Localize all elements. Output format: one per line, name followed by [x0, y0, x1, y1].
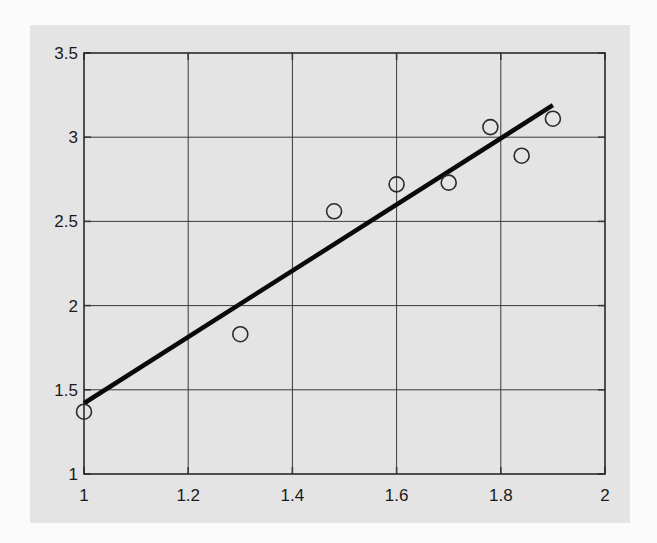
y-tick-label: 3.5	[54, 44, 78, 63]
data-point	[233, 327, 248, 342]
fit-line	[84, 105, 553, 403]
x-tick-label: 1	[79, 486, 88, 505]
x-tick-label: 1.4	[281, 486, 305, 505]
y-tick-label: 1	[69, 465, 78, 484]
y-tick-label: 3	[69, 128, 78, 147]
y-tick-label: 2	[69, 297, 78, 316]
x-tick-label: 1.6	[385, 486, 409, 505]
x-tick-label: 2	[600, 486, 609, 505]
data-point	[514, 148, 529, 163]
data-point	[441, 175, 456, 190]
plot-frame	[84, 53, 605, 474]
y-tick-label: 1.5	[54, 381, 78, 400]
data-point	[483, 120, 498, 135]
data-point	[327, 204, 342, 219]
x-tick-label: 1.8	[489, 486, 513, 505]
x-tick-label: 1.2	[176, 486, 200, 505]
scatter-chart: 11.21.41.61.8211.522.533.5	[0, 0, 657, 543]
y-tick-label: 2.5	[54, 212, 78, 231]
data-point	[545, 111, 560, 126]
